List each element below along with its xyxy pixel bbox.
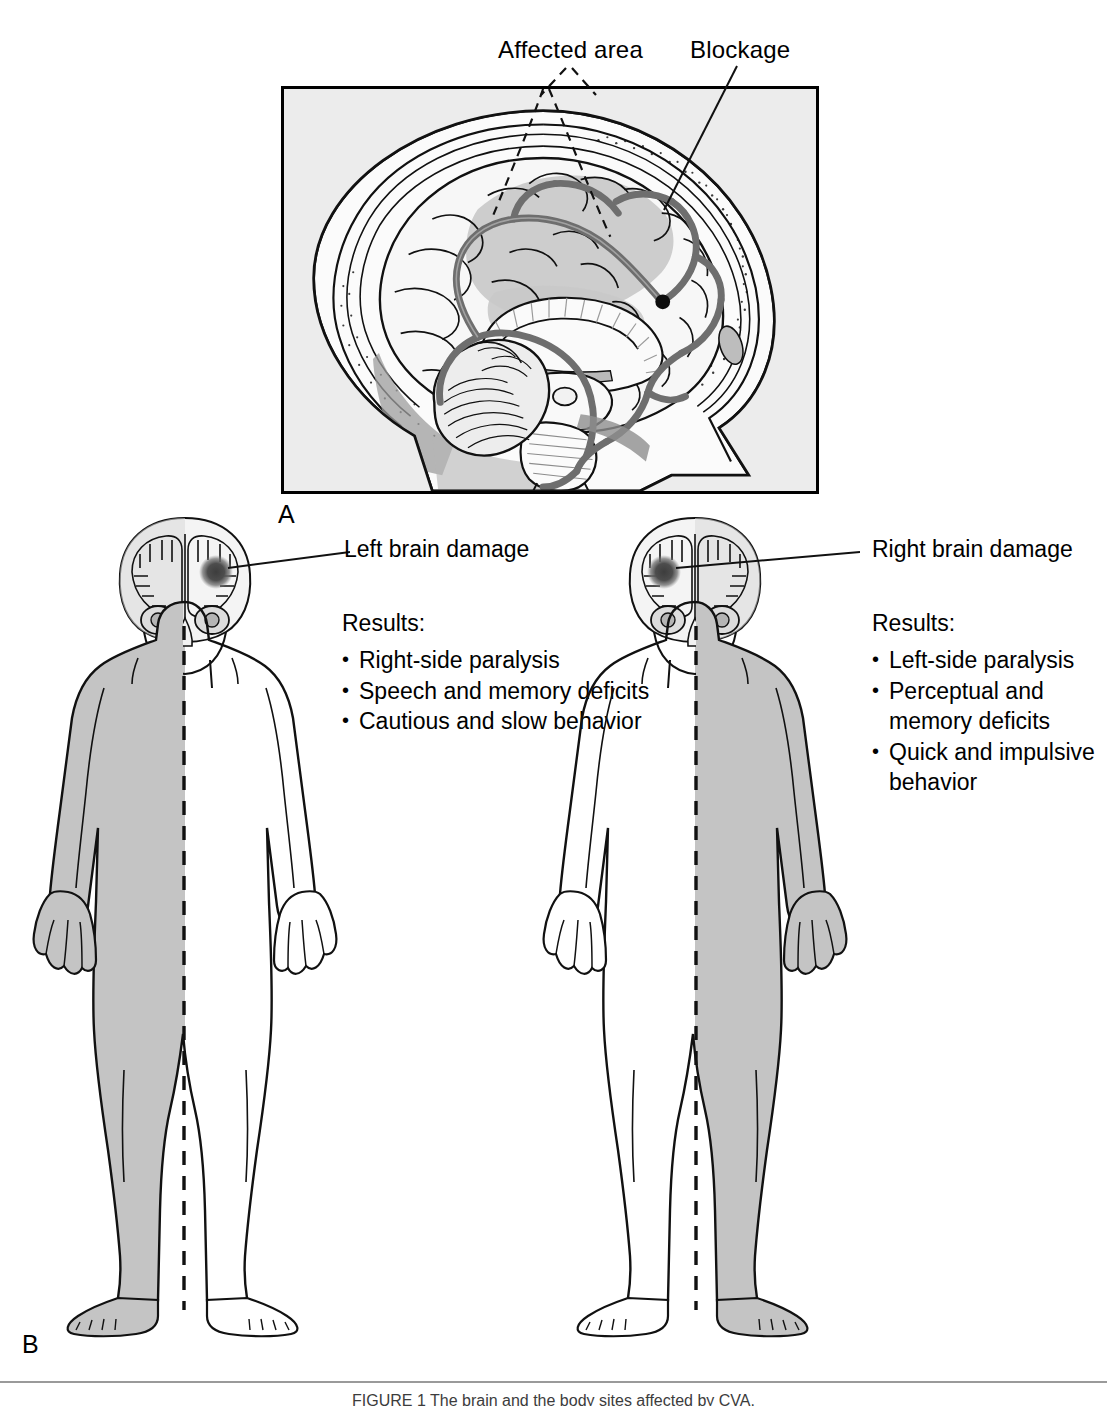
right-brain-damage-callout: Right brain damage <box>872 538 1073 561</box>
panel-b-body-figures: Left brain damage Results: Right-side pa… <box>0 510 1107 1370</box>
lesion-spot-icon <box>199 555 233 589</box>
panel-a-brain-section: Affected area Blockage <box>0 0 1107 535</box>
figure-right-brain-damage <box>530 510 860 1340</box>
foot-left-icon <box>578 1298 668 1336</box>
foot-right-icon <box>717 1298 807 1336</box>
list-item-continuation: behavior <box>872 769 1102 797</box>
left-brain-damage-callout: Left brain damage <box>344 538 529 561</box>
footer-divider <box>0 1381 1107 1383</box>
right-results-block: Results: Left-side paralysis Perceptual … <box>872 610 1102 800</box>
brain-illustration-frame <box>281 86 819 494</box>
list-item-continuation: memory deficits <box>872 708 1102 736</box>
list-item: Perceptual and <box>872 678 1102 706</box>
figure-caption: FIGURE 1 The brain and the body sites af… <box>0 1392 1107 1406</box>
affected-area-label: Affected area <box>498 36 643 64</box>
figure-left-brain-damage <box>20 510 350 1340</box>
human-body-figure-icon <box>530 510 860 1340</box>
right-results-list: Left-side paralysis Perceptual and memor… <box>872 647 1102 797</box>
blockage-occlusion-dot-icon <box>655 294 670 309</box>
hand-right-icon <box>274 891 336 974</box>
brain-sagittal-section-icon <box>284 89 816 491</box>
blockage-label: Blockage <box>690 36 790 64</box>
list-item: Quick and impulsive <box>872 739 1102 767</box>
hand-left-icon <box>544 891 606 974</box>
right-results-title: Results: <box>872 610 1102 637</box>
foot-right-icon <box>207 1298 297 1336</box>
foot-left-icon <box>68 1298 158 1336</box>
panel-b-letter: B <box>22 1330 39 1359</box>
list-item: Left-side paralysis <box>872 647 1102 675</box>
lesion-spot-icon <box>647 555 681 589</box>
human-body-figure-icon <box>20 510 350 1340</box>
